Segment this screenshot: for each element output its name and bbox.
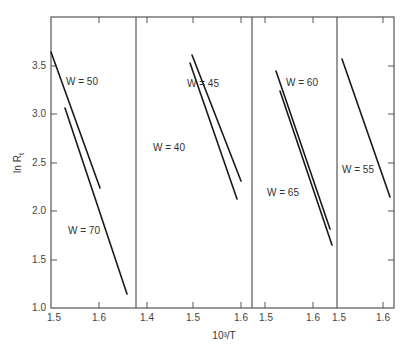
label-w40: W = 40	[153, 142, 185, 153]
x-axis-bottom-ticks	[99, 302, 383, 308]
svg-text:1.5: 1.5	[186, 312, 200, 323]
svg-text:1.5: 1.5	[47, 312, 61, 323]
svg-text:1.0: 1.0	[32, 302, 46, 313]
line-w60	[276, 71, 330, 229]
svg-text:1.6: 1.6	[306, 312, 320, 323]
line-w45	[192, 55, 241, 181]
y-axis-right-ticks	[388, 66, 394, 260]
arrhenius-chart: 3.5 3.0 2.5 2.0 1.5 1.0 1.5 1.6 1.4 1.5 …	[0, 0, 410, 348]
label-w70: W = 70	[68, 225, 100, 236]
svg-text:2.5: 2.5	[32, 157, 46, 168]
x-tick-labels: 1.5 1.6 1.4 1.5 1.6 1.5 1.6 1.5 1.6	[47, 312, 390, 323]
line-w70	[65, 108, 127, 294]
label-w45: W = 45	[187, 78, 219, 89]
line-w55	[342, 59, 390, 197]
x-axis-top-ticks	[99, 17, 383, 23]
label-w65: W = 65	[267, 187, 299, 198]
y-axis-title: ln Rt	[12, 153, 25, 173]
label-w50: W = 50	[66, 76, 98, 87]
svg-text:1.5: 1.5	[332, 312, 346, 323]
svg-text:3.5: 3.5	[32, 60, 46, 71]
svg-text:1.6: 1.6	[234, 312, 248, 323]
x-axis-title: 10³/T	[212, 330, 235, 341]
svg-text:2.0: 2.0	[32, 205, 46, 216]
series-labels: W = 50 W = 70 W = 45 W = 40 W = 60 W = 6…	[66, 76, 374, 236]
svg-text:ln Rt: ln Rt	[12, 153, 25, 173]
svg-text:1.4: 1.4	[140, 312, 154, 323]
y-axis-left-ticks	[51, 66, 57, 260]
line-w50	[51, 52, 100, 188]
y-tick-labels: 3.5 3.0 2.5 2.0 1.5 1.0	[32, 60, 46, 313]
svg-text:1.6: 1.6	[376, 312, 390, 323]
svg-text:3.0: 3.0	[32, 108, 46, 119]
label-w55: W = 55	[342, 164, 374, 175]
series-lines	[51, 52, 390, 294]
svg-text:1.5: 1.5	[259, 312, 273, 323]
line-w65	[280, 91, 332, 245]
svg-text:1.5: 1.5	[32, 254, 46, 265]
svg-text:1.6: 1.6	[92, 312, 106, 323]
label-w60: W = 60	[286, 77, 318, 88]
